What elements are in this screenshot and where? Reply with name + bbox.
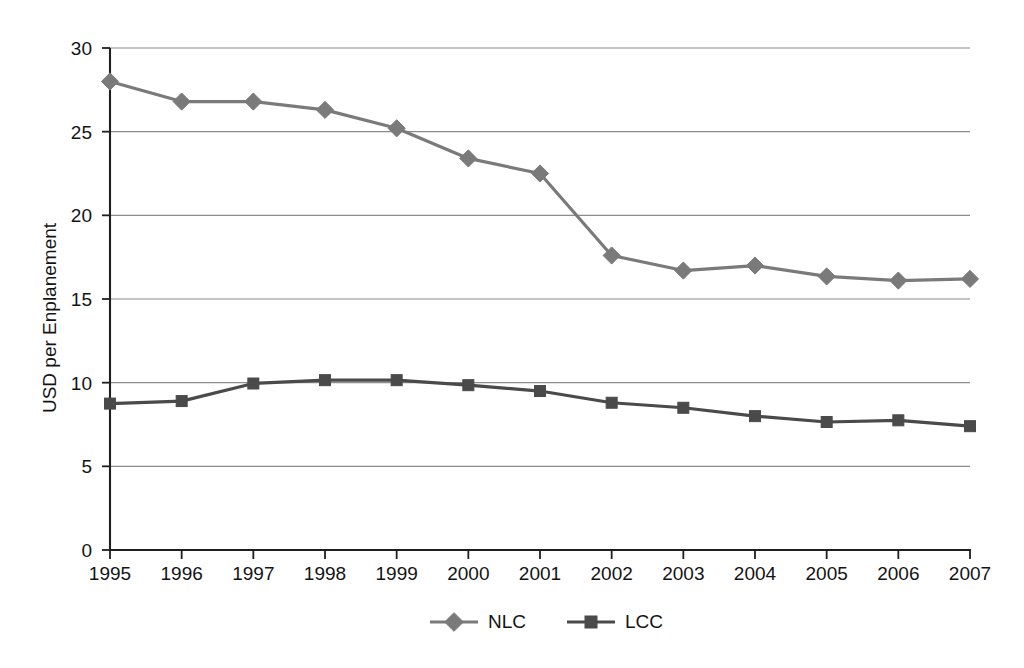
square-marker [750, 411, 761, 422]
square-marker [105, 398, 116, 409]
y-tick-label: 25 [71, 122, 92, 143]
x-tick-label: 1996 [161, 563, 203, 584]
x-tick-label: 1998 [304, 563, 346, 584]
legend-label: LCC [625, 611, 663, 632]
square-marker [535, 386, 546, 397]
square-marker [391, 375, 402, 386]
x-tick-label: 2005 [806, 563, 848, 584]
x-tick-label: 2000 [447, 563, 489, 584]
x-tick-label: 1997 [232, 563, 274, 584]
square-marker [585, 616, 597, 628]
x-tick-label: 2007 [949, 563, 991, 584]
square-marker [248, 378, 259, 389]
y-axis-title: USD per Enplanement [39, 222, 60, 413]
x-tick-label: 2006 [877, 563, 919, 584]
y-tick-label: 15 [71, 289, 92, 310]
y-tick-label: 0 [81, 540, 92, 561]
y-tick-label: 10 [71, 373, 92, 394]
x-tick-label: 2003 [662, 563, 704, 584]
x-tick-label: 2002 [591, 563, 633, 584]
x-tick-label: 2001 [519, 563, 561, 584]
square-marker [606, 397, 617, 408]
x-tick-label: 1999 [376, 563, 418, 584]
line-chart: 051015202530 199519961997199819992000200… [0, 0, 1024, 668]
chart-container: 051015202530 199519961997199819992000200… [0, 0, 1024, 668]
y-tick-label: 30 [71, 38, 92, 59]
square-marker [821, 416, 832, 427]
y-tick-label: 5 [81, 456, 92, 477]
square-marker [463, 380, 474, 391]
y-tick-label: 20 [71, 205, 92, 226]
square-marker [965, 421, 976, 432]
legend-label: NLC [488, 611, 526, 632]
square-marker [176, 396, 187, 407]
square-marker [893, 415, 904, 426]
square-marker [320, 375, 331, 386]
chart-background [0, 0, 1024, 668]
x-tick-label: 2004 [734, 563, 777, 584]
x-tick-label: 1995 [89, 563, 131, 584]
square-marker [678, 402, 689, 413]
